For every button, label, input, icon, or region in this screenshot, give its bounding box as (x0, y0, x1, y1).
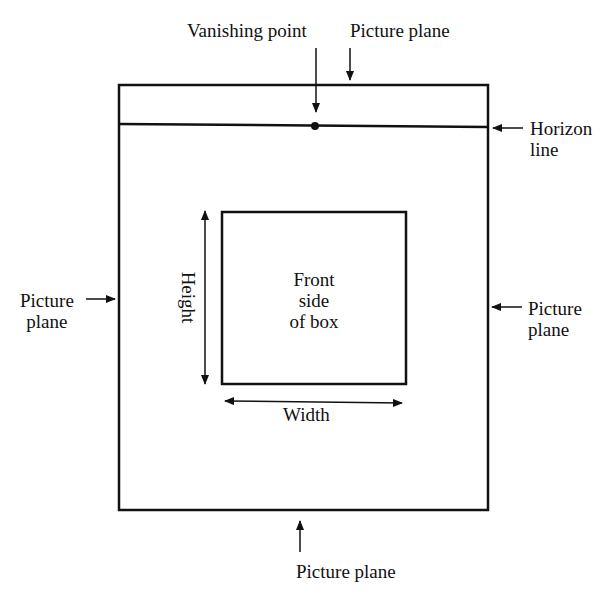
front-side-line2: side (262, 290, 366, 311)
front-side-line3: of box (262, 311, 366, 332)
height-label: Height (178, 268, 199, 328)
width-arrow (225, 401, 402, 403)
picture-plane-left-label: Picture plane (20, 290, 74, 332)
width-label: Width (283, 404, 330, 425)
picture-plane-left-line2: plane (20, 311, 74, 332)
horizon-line-label-line1: Horizon (530, 118, 592, 139)
picture-plane-top-label: Picture plane (350, 20, 450, 41)
front-side-line1: Front (262, 269, 366, 290)
picture-plane-right-line1: Picture (528, 298, 582, 319)
vanishing-point-dot (311, 122, 319, 130)
horizon-line-label-line2: line (530, 139, 592, 160)
front-side-label: Front side of box (262, 269, 366, 332)
picture-plane-left-line1: Picture (20, 290, 74, 311)
horizon-line-label: Horizon line (530, 118, 592, 160)
horizon-line (119, 124, 488, 127)
picture-plane-right-label: Picture plane (528, 298, 582, 340)
picture-plane-bottom-label: Picture plane (296, 561, 396, 582)
picture-plane-right-line2: plane (528, 319, 582, 340)
vanishing-point-label: Vanishing point (187, 20, 307, 41)
